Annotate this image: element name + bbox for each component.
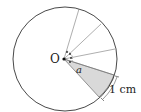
dimension-tick-top [115,76,119,77]
angle-label: a [76,64,82,75]
center-point [62,57,65,60]
arc-length-label: 1 cm [109,83,137,96]
shaded-sector [64,59,114,97]
center-label: O [50,52,60,66]
circle-sector-diagram: O a 1 cm [0,0,141,112]
